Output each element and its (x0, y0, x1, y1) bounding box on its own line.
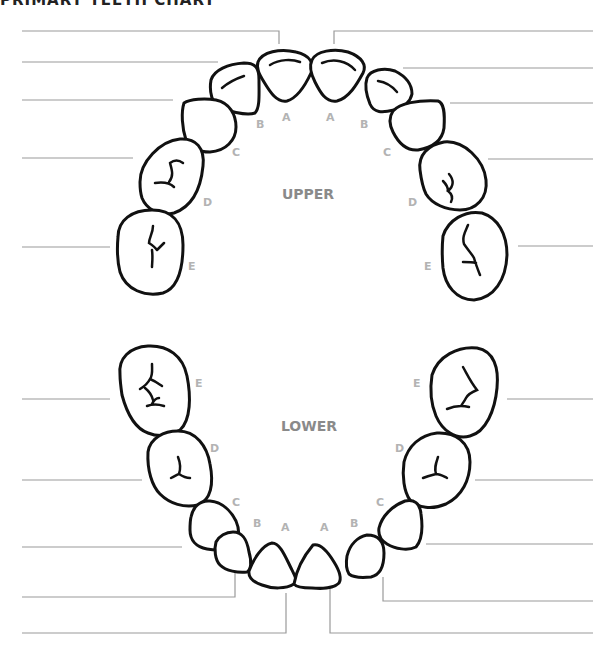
upper-arch (117, 50, 507, 300)
label-upper-left-c: C (232, 146, 240, 159)
tooth-lower-left-b[interactable] (215, 532, 251, 572)
label-lower-right-c: C (376, 496, 384, 509)
label-lower-right-d: D (395, 442, 404, 455)
label-lower-left-c: C (232, 496, 240, 509)
label-upper-left-e: E (188, 260, 196, 273)
label-upper-right-d: D (408, 196, 417, 209)
tooth-lower-right-c[interactable] (379, 501, 422, 550)
label-lower-left-a: A (281, 521, 290, 534)
answer-line-lower-right-b[interactable] (383, 577, 593, 601)
label-lower-right-b: B (350, 517, 358, 530)
tooth-lower-left-a[interactable] (249, 543, 296, 588)
tooth-lower-right-b[interactable] (346, 535, 384, 578)
tooth-lower-right-d[interactable] (403, 433, 470, 508)
label-lower-right-a: A (320, 521, 329, 534)
label-upper-right-e: E (424, 260, 432, 273)
answer-line-lower-right-a[interactable] (330, 587, 593, 633)
lower-arch (120, 346, 498, 588)
answer-line-upper-left-a[interactable] (22, 31, 279, 44)
label-upper-left-b: B (256, 118, 264, 131)
label-lower-left-d: D (210, 442, 219, 455)
tooth-upper-left-e[interactable] (117, 210, 183, 294)
label-lower-left-e: E (195, 377, 203, 390)
label-upper-right-a: A (326, 111, 335, 124)
label-lower-right-e: E (413, 377, 421, 390)
label-upper-right-b: B (360, 118, 368, 131)
answer-line-lower-left-a[interactable] (22, 593, 286, 633)
tooth-lower-right-e[interactable] (431, 348, 497, 437)
tooth-upper-left-a[interactable] (257, 50, 312, 101)
tooth-upper-right-e[interactable] (442, 212, 507, 300)
lower-arch-label: LOWER (281, 418, 337, 434)
tooth-upper-right-a[interactable] (311, 50, 365, 101)
label-lower-left-b: B (253, 517, 261, 530)
answer-line-lower-left-b[interactable] (22, 572, 235, 597)
label-upper-left-d: D (203, 196, 212, 209)
tooth-lower-right-a[interactable] (294, 545, 340, 589)
tooth-lower-left-e[interactable] (120, 346, 190, 435)
upper-arch-label: UPPER (282, 186, 334, 202)
primary-teeth-diagram: A B C D E A B C D E UPPER (0, 0, 613, 660)
label-upper-left-a: A (282, 111, 291, 124)
label-upper-right-c: C (383, 146, 391, 159)
answer-line-upper-right-a[interactable] (334, 31, 593, 44)
